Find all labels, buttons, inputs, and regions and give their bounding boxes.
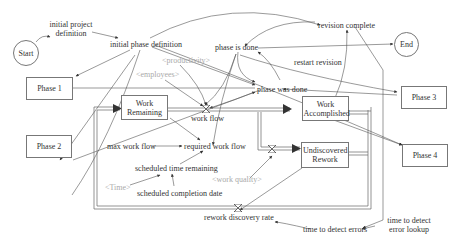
work-flow-label: work flow bbox=[191, 114, 224, 123]
work-accomplished-stock: Work Accomplished bbox=[302, 96, 349, 121]
phase-2-box: Phase 2 bbox=[26, 135, 72, 158]
phase-2-label: Phase 2 bbox=[37, 142, 62, 151]
productivity-shadow-label: <productivity> bbox=[162, 56, 210, 65]
required-work-flow-label: required work flow bbox=[184, 142, 246, 151]
work-accomplished-label: Work Accomplished bbox=[304, 100, 348, 118]
scheduled-time-remaining-label: scheduled time remaining bbox=[135, 164, 218, 173]
work-remaining-label: Work Remaining bbox=[125, 99, 165, 117]
rework-discovery-valve-icon bbox=[234, 204, 242, 212]
scheduled-completion-date-label: scheduled completion date bbox=[137, 189, 222, 198]
start-label: Start bbox=[18, 49, 33, 58]
initial-phase-definition-label: initial phase definition bbox=[110, 40, 182, 49]
undiscovered-inflow-valve-icon bbox=[268, 145, 276, 153]
phase-is-done-label: phase is done bbox=[215, 43, 258, 52]
work-flow-valve-icon bbox=[202, 105, 210, 113]
revision-complete-label: revision complete bbox=[318, 21, 375, 30]
phase-4-label: Phase 4 bbox=[413, 151, 438, 160]
restart-revision-label: restart revision bbox=[294, 58, 342, 67]
undiscovered-rework-stock: Undiscovered Rework bbox=[301, 142, 349, 168]
time-to-detect-errors-label: time to detect errors bbox=[303, 225, 367, 234]
max-work-flow-label: max work flow bbox=[107, 142, 156, 151]
phase-4-box: Phase 4 bbox=[402, 144, 448, 167]
work-remaining-stock: Work Remaining bbox=[121, 95, 168, 120]
phase-1-box: Phase 1 bbox=[26, 77, 73, 100]
time-to-detect-error-lookup-label: time to detect error lookup bbox=[385, 216, 433, 234]
start-node: Start bbox=[13, 40, 39, 66]
rework-discovery-rate-label: rework discovery rate bbox=[204, 213, 274, 222]
phase-was-done-label: phase was done bbox=[257, 85, 307, 94]
end-label: End bbox=[400, 40, 413, 49]
phase-3-label: Phase 3 bbox=[412, 93, 437, 102]
employees-shadow-label: <employees> bbox=[136, 70, 179, 79]
end-node: End bbox=[394, 32, 419, 57]
initial-project-definition-label: initial project definition bbox=[49, 20, 93, 38]
undiscovered-rework-label: Undiscovered Rework bbox=[303, 146, 347, 164]
work-quality-shadow-label: <work quality> bbox=[212, 175, 262, 184]
phase-3-box: Phase 3 bbox=[401, 86, 447, 109]
time-shadow-label: <Time> bbox=[105, 183, 131, 192]
stock-flow-diagram: Start End Phase 1 Phase 2 Phase 3 Phase … bbox=[0, 0, 461, 244]
phase-1-label: Phase 1 bbox=[37, 84, 62, 93]
